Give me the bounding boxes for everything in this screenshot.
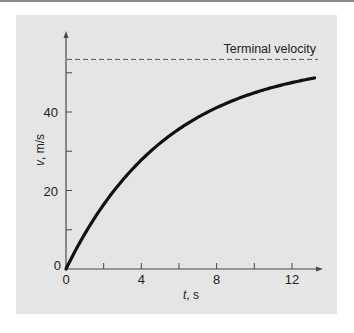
- axes: [64, 31, 324, 272]
- y-axis-label: v, m/s: [33, 134, 47, 166]
- x-tick-label: 0: [62, 272, 69, 287]
- x-axis-arrow-icon: [316, 267, 323, 272]
- y-axis-unit: , m/s: [33, 134, 47, 160]
- tick-labels: 0481202040: [44, 105, 300, 287]
- terminal-velocity-label: Terminal velocity: [224, 42, 317, 56]
- ticks: [66, 73, 292, 269]
- x-tick-label: 12: [285, 272, 299, 287]
- x-axis-label: t, s: [183, 288, 199, 302]
- velocity-chart: Terminal velocity t, s v, m/s 0481202040: [0, 0, 354, 333]
- y-tick-label: 0: [54, 258, 61, 273]
- velocity-curve: [66, 78, 315, 269]
- y-tick-label: 40: [44, 105, 58, 120]
- y-axis-arrow-icon: [64, 31, 69, 38]
- x-axis-unit: , s: [186, 288, 199, 302]
- y-tick-label: 20: [44, 184, 58, 199]
- x-tick-label: 4: [138, 272, 145, 287]
- x-tick-label: 8: [213, 272, 220, 287]
